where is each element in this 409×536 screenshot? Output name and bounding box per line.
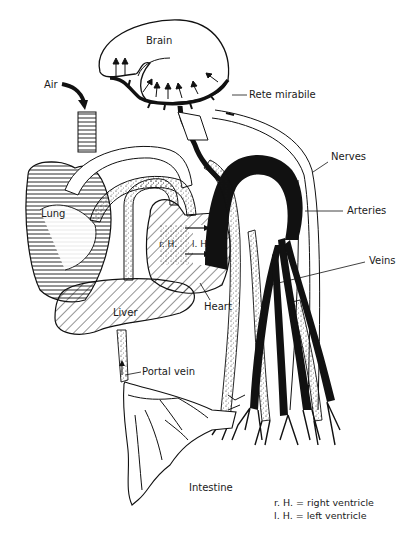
label-left-ventricle: l. H.	[192, 240, 210, 249]
legend: r. H. = right ventricle l. H. = left ven…	[274, 497, 374, 522]
cut-vessel	[178, 112, 208, 140]
circulation-diagram	[0, 0, 409, 536]
legend-item-left-ventricle: l. H. = left ventricle	[274, 510, 374, 523]
label-liver: Liver	[113, 308, 138, 318]
label-air: Air	[44, 80, 58, 90]
label-intestine: Intestine	[189, 483, 233, 493]
portal-vein	[117, 330, 128, 382]
label-arteries: Arteries	[347, 206, 386, 216]
label-rete-mirabile: Rete mirabile	[249, 90, 316, 100]
legend-item-right-ventricle: r. H. = right ventricle	[274, 497, 374, 510]
label-heart: Heart	[204, 302, 232, 312]
label-veins: Veins	[369, 256, 396, 266]
label-nerves: Nerves	[331, 152, 366, 162]
air-arrow-icon	[62, 84, 88, 110]
label-right-ventricle: r. H.	[159, 240, 177, 249]
label-brain: Brain	[146, 36, 172, 46]
label-lung: Lung	[41, 209, 65, 219]
brain	[99, 20, 228, 103]
trachea	[78, 112, 96, 152]
label-portal-vein: Portal vein	[142, 367, 195, 377]
